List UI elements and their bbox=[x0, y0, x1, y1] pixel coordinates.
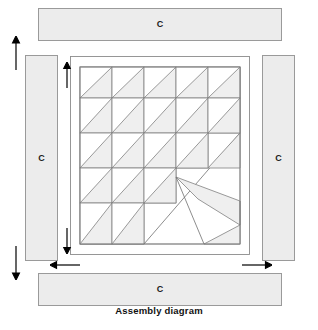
arrows-left-outer bbox=[8, 36, 24, 280]
arrow-left-up-head bbox=[13, 36, 20, 43]
border-strip-left: C bbox=[25, 55, 58, 261]
hst-row-0 bbox=[80, 67, 240, 98]
border-strip-top: C bbox=[38, 8, 282, 41]
assembly-diagram-canvas: C C C C .pf{fill:#efefef;stroke:#808080;… bbox=[0, 0, 318, 330]
border-strip-right-label: C bbox=[275, 154, 282, 163]
arrow-bottom-left-head bbox=[50, 262, 57, 268]
hst-row-2 bbox=[80, 133, 208, 168]
arrows-bottom bbox=[50, 258, 272, 272]
hst-row-1 bbox=[80, 98, 240, 133]
border-strip-left-label: C bbox=[38, 154, 45, 163]
quilt-block-svg: .pf{fill:#efefef;stroke:#808080;stroke-w… bbox=[70, 56, 250, 255]
arrow-left-down-head bbox=[13, 273, 20, 280]
center-quilt-block: .pf{fill:#efefef;stroke:#808080;stroke-w… bbox=[70, 56, 250, 255]
border-strip-bottom: C bbox=[38, 273, 282, 306]
border-strip-top-label: C bbox=[157, 20, 164, 29]
figure-title: Assembly diagram bbox=[0, 305, 318, 316]
block-inner-field bbox=[80, 67, 240, 244]
hst-row-3 bbox=[80, 168, 176, 203]
arrow-inner-down-head bbox=[64, 248, 70, 255]
arrow-inner-up-head bbox=[64, 62, 70, 69]
hst-row-4 bbox=[80, 203, 144, 244]
arrow-bottom-right-head bbox=[266, 262, 273, 268]
border-strip-bottom-label: C bbox=[157, 285, 164, 294]
border-strip-right: C bbox=[262, 55, 295, 261]
arrows-inner-left bbox=[60, 62, 74, 254]
